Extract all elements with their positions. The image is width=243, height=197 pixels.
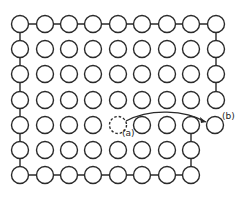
atom xyxy=(12,142,29,159)
atom xyxy=(208,66,225,83)
atom xyxy=(159,117,176,134)
atom xyxy=(159,16,176,33)
atom xyxy=(110,142,127,159)
atom xyxy=(110,41,127,58)
atom xyxy=(183,92,200,109)
atoms xyxy=(12,16,225,184)
atom xyxy=(85,41,102,58)
atom xyxy=(61,16,78,33)
atom xyxy=(110,167,127,184)
atom xyxy=(61,66,78,83)
arrowhead-icon xyxy=(200,117,206,123)
atom xyxy=(110,66,127,83)
atom xyxy=(61,117,78,134)
atom xyxy=(61,167,78,184)
atom xyxy=(183,117,200,134)
atom xyxy=(208,41,225,58)
displaced-atom-b xyxy=(207,117,224,134)
atom xyxy=(159,167,176,184)
atom xyxy=(183,142,200,159)
atom xyxy=(134,16,151,33)
atom xyxy=(159,66,176,83)
atom xyxy=(12,167,29,184)
atom xyxy=(110,92,127,109)
atom xyxy=(37,41,54,58)
atom xyxy=(85,16,102,33)
atom xyxy=(134,92,151,109)
atom xyxy=(134,41,151,58)
atom xyxy=(110,16,127,33)
atom xyxy=(183,16,200,33)
atom xyxy=(12,92,29,109)
atom xyxy=(134,167,151,184)
atom xyxy=(12,66,29,83)
atom xyxy=(183,167,200,184)
atom xyxy=(134,117,151,134)
atom xyxy=(37,16,54,33)
atom xyxy=(85,167,102,184)
atom xyxy=(12,16,29,33)
label-b: (b) xyxy=(222,111,235,121)
atom xyxy=(159,41,176,58)
atom xyxy=(134,142,151,159)
atom xyxy=(85,117,102,134)
atom xyxy=(12,41,29,58)
atom xyxy=(37,66,54,83)
atom xyxy=(85,66,102,83)
atom xyxy=(159,142,176,159)
atom xyxy=(183,41,200,58)
atom xyxy=(61,92,78,109)
atom xyxy=(37,142,54,159)
atom xyxy=(37,117,54,134)
atom xyxy=(208,16,225,33)
atom xyxy=(37,92,54,109)
atom xyxy=(85,142,102,159)
atom xyxy=(159,92,176,109)
atom xyxy=(37,167,54,184)
atom xyxy=(61,41,78,58)
atom xyxy=(183,66,200,83)
lattice-diagram: (a) (b) xyxy=(0,0,243,197)
atom xyxy=(12,117,29,134)
atom xyxy=(85,92,102,109)
atom xyxy=(208,92,225,109)
atom xyxy=(134,66,151,83)
atom xyxy=(61,142,78,159)
label-a: (a) xyxy=(122,128,135,138)
